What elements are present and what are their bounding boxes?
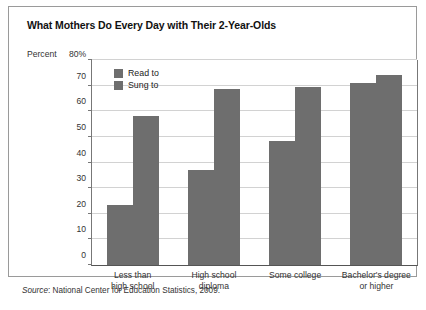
bar	[107, 205, 133, 265]
y-tick-label: 0	[81, 250, 86, 260]
bar	[214, 89, 240, 265]
bar-group	[255, 60, 336, 265]
bar	[295, 87, 321, 265]
source-note: Source: National Center for Education St…	[22, 286, 220, 295]
chart-title: What Mothers Do Every Day with Their 2-Y…	[27, 19, 276, 31]
y-tick-label: 60	[76, 96, 86, 106]
y-tick-label: 50	[76, 122, 86, 132]
chart-figure: What Mothers Do Every Day with Their 2-Y…	[0, 0, 426, 310]
y-tick-label: 30	[76, 173, 86, 183]
source-label: Source	[22, 286, 48, 295]
legend-item: Sung to	[114, 80, 159, 90]
x-axis-label: Bachelor's degreeor higher	[342, 270, 411, 291]
bar-group	[173, 60, 254, 265]
y-tick-label: 40	[76, 148, 86, 158]
plot-area: 010203040506070 Less thanhigh schoolHigh…	[91, 60, 418, 266]
bar	[269, 141, 295, 265]
y-tick-label: 70	[76, 71, 86, 81]
legend-item: Read to	[114, 68, 159, 78]
bar	[188, 170, 214, 265]
legend-label: Read to	[128, 68, 159, 78]
x-axis-label: Some college	[269, 270, 321, 281]
y-axis-title: Percent	[27, 49, 57, 59]
chart-card: What Mothers Do Every Day with Their 2-Y…	[8, 6, 417, 277]
y-axis-max-label: 80%	[69, 49, 86, 59]
source-text: : National Center for Education Statisti…	[48, 286, 220, 295]
legend-label: Sung to	[128, 80, 158, 90]
y-tick-label: 20	[76, 199, 86, 209]
legend-swatch-icon	[114, 81, 123, 90]
bar-group	[92, 60, 173, 265]
bar	[350, 83, 376, 265]
bar	[133, 116, 159, 265]
y-tick-label: 10	[76, 224, 86, 234]
bar	[376, 75, 402, 265]
chart-legend: Read toSung to	[114, 68, 159, 90]
bar-group	[336, 60, 417, 265]
legend-swatch-icon	[114, 69, 123, 78]
